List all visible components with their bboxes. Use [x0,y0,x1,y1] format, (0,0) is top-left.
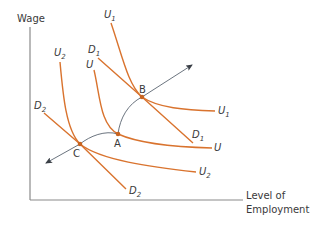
u1-right-label: U1 [218,105,230,119]
d2-top-label: D2 [34,100,47,114]
u-top-label: U [86,59,94,70]
point-b-marker [140,95,145,100]
x-axis-label-line2: Employment [246,204,309,215]
point-a-marker [116,132,121,137]
wage-employment-diagram: Wage Level of Employment B A C U1 U1 U U… [0,0,323,225]
u2-top-label: U2 [54,47,66,61]
u2-right-label: U2 [199,166,211,180]
point-c-label: C [73,148,80,159]
path-a-to-c-arrow [46,133,118,163]
point-b-label: B [139,84,146,95]
indifference-curve-u1 [111,23,215,111]
y-axis-label: Wage [17,13,45,24]
u-right-label: U [214,142,222,153]
demand-curve-d2 [44,113,126,189]
u1-top-label: U1 [104,9,116,23]
point-c-marker [78,142,83,147]
indifference-curve-u2 [60,62,196,172]
d2-bottom-label: D2 [129,185,142,199]
d1-bottom-label: D1 [192,129,204,143]
x-axis-label-line1: Level of [246,190,286,201]
d1-top-label: D1 [88,44,100,58]
point-a-label: A [114,138,121,149]
